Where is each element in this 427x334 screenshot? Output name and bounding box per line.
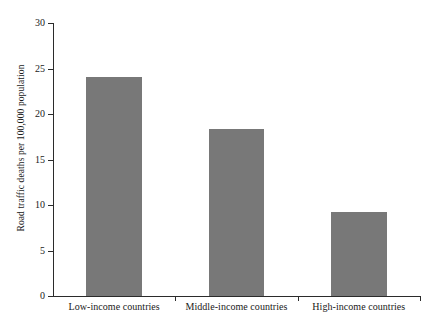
- y-axis-tick-label: 15: [35, 155, 45, 165]
- y-axis-tick-label: 5: [40, 246, 45, 256]
- plot-area: 051015202530: [53, 23, 420, 296]
- x-axis-category-label: Middle-income countries: [175, 300, 297, 314]
- x-axis-line: [53, 296, 420, 297]
- bar-chart: Road traffic deaths per 100,000 populati…: [0, 0, 427, 334]
- x-axis-category-label: High-income countries: [298, 300, 420, 314]
- bars-layer: [53, 23, 420, 296]
- y-axis-tick-label: 20: [35, 109, 45, 119]
- x-axis-category-label: Low-income countries: [53, 300, 175, 314]
- x-axis-labels: Low-income countriesMiddle-income countr…: [53, 300, 420, 318]
- y-axis-tick-mark: [48, 296, 53, 297]
- y-axis-title: Road traffic deaths per 100,000 populati…: [14, 0, 28, 296]
- y-axis-tick-label: 25: [35, 64, 45, 74]
- bar: [331, 212, 387, 296]
- y-axis-tick-label: 0: [40, 291, 45, 301]
- y-axis-tick-label: 10: [35, 200, 45, 210]
- bar: [86, 77, 142, 296]
- bar: [209, 129, 265, 296]
- y-axis-tick-label: 30: [35, 18, 45, 28]
- x-axis-tick-mark: [420, 296, 421, 301]
